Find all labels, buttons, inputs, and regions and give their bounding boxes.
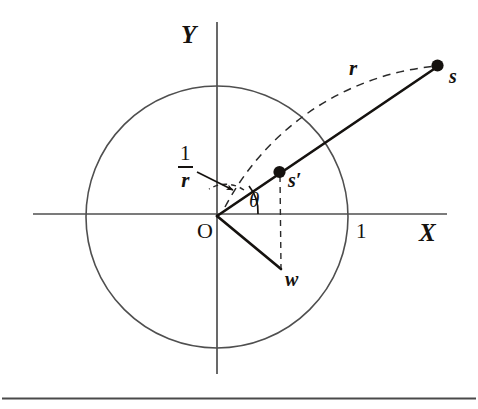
fraction-denominator: r bbox=[178, 169, 193, 191]
theta-angle-label: θ bbox=[249, 190, 259, 211]
inverse-radius-callout-arrow bbox=[197, 172, 233, 190]
point-s-label: s bbox=[449, 66, 457, 86]
point-s-prime-label: s′ bbox=[288, 170, 301, 190]
fraction-numerator: 1 bbox=[178, 143, 193, 165]
point-s-marker bbox=[431, 59, 443, 71]
diagram-canvas bbox=[0, 0, 478, 409]
point-w-label: w bbox=[285, 269, 298, 289]
inverse-radius-fraction-label: 1 r bbox=[178, 143, 193, 191]
dashed-drop-line bbox=[280, 176, 281, 268]
x-axis-label: X bbox=[419, 220, 436, 245]
vector-w-segment bbox=[217, 216, 281, 269]
y-axis-label: Y bbox=[181, 22, 196, 47]
figure-container: Y X O 1 s s′ w θ r 1 r bbox=[0, 0, 478, 409]
point-s-prime-marker bbox=[273, 166, 285, 178]
origin-label: O bbox=[197, 220, 213, 242]
x-tick-label-1: 1 bbox=[356, 221, 367, 242]
arc-radius-r-label: r bbox=[349, 58, 357, 79]
